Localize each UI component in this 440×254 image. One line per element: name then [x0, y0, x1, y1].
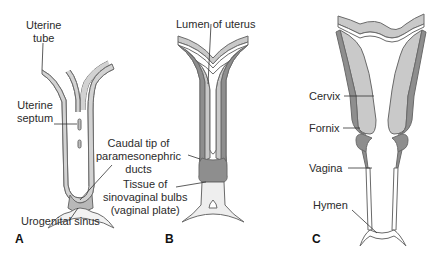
- label-uterine-tube: Uterine tube: [26, 19, 61, 45]
- label-line: septum: [17, 112, 53, 125]
- label-sinovaginal-tissue: Tissue of sinovaginal bulbs (vaginal pla…: [103, 178, 187, 217]
- label-line: ducts: [96, 163, 181, 176]
- label-line: Uterine: [17, 99, 53, 112]
- label-line: Caudal tip of: [96, 137, 181, 150]
- label-cervix: Cervix: [309, 90, 340, 103]
- label-lumen-of-uterus: Lumen of uterus: [176, 18, 256, 31]
- panel-letter-c: C: [312, 232, 321, 246]
- hymen-shape: [360, 230, 406, 246]
- label-line: tube: [26, 32, 61, 45]
- label-line: Tissue of: [103, 178, 187, 191]
- label-line: (vaginal plate): [103, 204, 187, 217]
- panel-b-drawing: [178, 36, 248, 222]
- label-fornix: Fornix: [309, 122, 340, 135]
- panel-c-drawing: [336, 14, 426, 246]
- label-caudal-tip: Caudal tip of paramesonephric ducts: [96, 137, 181, 176]
- panel-letter-a: A: [15, 232, 24, 246]
- label-urogenital-sinus: Urogenital sinus: [21, 215, 100, 228]
- label-hymen: Hymen: [313, 199, 348, 212]
- label-vagina: Vagina: [309, 162, 342, 175]
- label-uterine-septum: Uterine septum: [17, 99, 53, 125]
- label-line: Uterine: [26, 19, 61, 32]
- label-line: sinovaginal bulbs: [103, 191, 187, 204]
- panel-letter-b: B: [165, 232, 174, 246]
- label-line: paramesonephric: [96, 150, 181, 163]
